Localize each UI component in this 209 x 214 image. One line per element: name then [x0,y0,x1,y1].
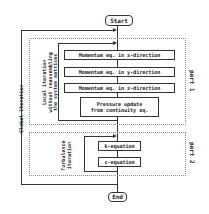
turbulence-loop-top-line [84,136,114,137]
local-loop-top-line [58,43,114,44]
start-terminal: Start [105,15,133,26]
epsilon-equation-label: ε-equation [104,159,134,165]
turbulence-loop-left-line [84,136,85,172]
local-iteration-label: Local iteration without reassembling the… [42,37,59,127]
momentum-z-box: Momentum eq. in z-direction [64,83,175,93]
turbulence-line-2: iteration [67,131,73,181]
momentum-y-label: Momentum eq. in y-direction [79,69,161,75]
start-label: Start [110,18,128,24]
global-iteration-label: Global Iteration [19,69,25,149]
pressure-line-2: from continuity eq. [91,107,148,113]
turbulence-iteration-label: Turbulence iteration [61,131,72,181]
momentum-x-box: Momentum eq. in x-direction [64,50,175,60]
global-loop-bottom-line [21,184,117,185]
local-loop-bottom-line [58,120,117,121]
part2-label: part 2 [189,133,195,173]
local-loop-arrow-icon [113,41,117,45]
k-equation-box: k-equation [98,141,141,151]
momentum-y-box: Momentum eq. in y-direction [64,67,175,77]
momentum-x-label: Momentum eq. in x-direction [79,52,161,58]
global-loop-arrow-icon [113,28,117,32]
epsilon-equation-box: ε-equation [98,157,141,167]
part2-region [29,132,186,176]
k-equation-label: k-equation [104,143,134,149]
turbulence-loop-bottom-line [84,171,117,172]
momentum-z-label: Momentum eq. in z-direction [79,85,161,91]
end-terminal: End [108,192,127,202]
turbulence-loop-arrow-icon [113,134,117,138]
part1-label: part 1 [189,61,195,101]
end-label: End [112,194,123,200]
local-iteration-line-3: the system matrices [53,37,59,127]
pressure-update-box: Pressure update from continuity eq. [80,97,159,117]
global-loop-top-line [21,30,114,31]
